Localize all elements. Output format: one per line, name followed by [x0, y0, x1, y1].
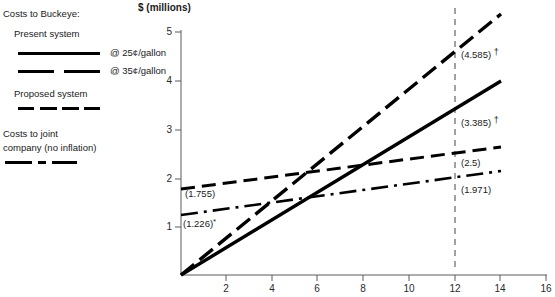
- x-tick-label-12: 12: [446, 283, 464, 294]
- x-tick-label-8: 8: [354, 283, 372, 294]
- series-line-proposed-system: [181, 147, 501, 189]
- annotation-joint-start-text: (1.226): [183, 218, 213, 229]
- x-tick-label-4: 4: [263, 283, 281, 294]
- annotation-present-25c: (3.385) †: [461, 115, 499, 128]
- annotation-proposed-end: (2.5): [461, 157, 481, 168]
- annotation-joint-start-marker: *: [213, 217, 216, 226]
- annotation-present-25c-text: (3.385): [461, 117, 491, 128]
- x-tick-label-16: 16: [537, 283, 555, 294]
- annotation-joint-start: (1.226)*: [183, 217, 216, 229]
- y-tick-label-4: 4: [158, 75, 172, 86]
- y-axis-ticks: [175, 32, 181, 227]
- annotation-proposed-end-text: (2.5): [461, 157, 481, 168]
- plot-area: [0, 0, 555, 297]
- annotation-proposed-start-text: (1.755): [185, 188, 215, 199]
- annotation-present-35c-marker: †: [494, 47, 499, 57]
- annotation-present-35c: (4.585) †: [461, 47, 499, 60]
- annotation-proposed-start: (1.755): [185, 188, 215, 199]
- y-tick-label-5: 5: [158, 26, 172, 37]
- chart-svg: [0, 0, 555, 297]
- annotation-present-25c-marker: †: [494, 115, 499, 125]
- x-tick-label-6: 6: [308, 283, 326, 294]
- chart-page: Costs to Buckeye: Present system @ 25¢/g…: [0, 0, 555, 297]
- annotation-joint-end: (1.971): [461, 184, 491, 195]
- annotation-present-35c-text: (4.585): [461, 49, 491, 60]
- series-line-present-25c: [181, 81, 501, 275]
- annotation-joint-end-text: (1.971): [461, 184, 491, 195]
- y-tick-label-1: 1: [158, 221, 172, 232]
- x-tick-label-14: 14: [491, 283, 509, 294]
- y-tick-label-2: 2: [158, 173, 172, 184]
- series-line-present-35c: [181, 14, 501, 275]
- x-tick-label-2: 2: [217, 283, 235, 294]
- y-tick-label-3: 3: [158, 124, 172, 135]
- x-tick-label-10: 10: [400, 283, 418, 294]
- x-axis-ticks: [226, 275, 546, 281]
